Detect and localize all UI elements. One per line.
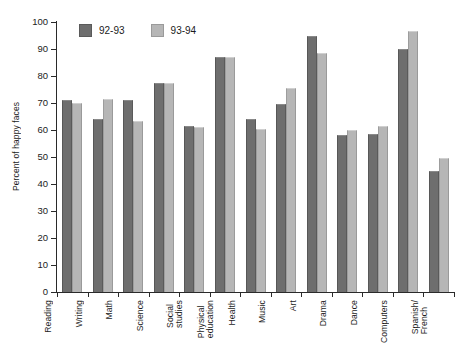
x-axis-tick xyxy=(210,292,211,297)
bar xyxy=(347,130,357,292)
y-axis-tick-label: 10 xyxy=(20,260,48,270)
legend-entry: 92-93 xyxy=(79,24,125,37)
bar xyxy=(429,171,439,293)
bar-group xyxy=(62,22,82,292)
x-axis-tick xyxy=(332,292,333,297)
y-axis-tick-label: 30 xyxy=(20,206,48,216)
y-axis-tick-label: 60 xyxy=(20,125,48,135)
legend-label: 93-94 xyxy=(171,26,197,36)
y-axis-tick-label: 70 xyxy=(20,98,48,108)
x-axis-tick xyxy=(301,292,302,297)
x-axis-tick xyxy=(179,292,180,297)
bar-group xyxy=(184,22,204,292)
bar-group xyxy=(93,22,113,292)
legend-swatch xyxy=(151,24,164,37)
bar xyxy=(72,103,82,292)
bar xyxy=(307,36,317,293)
bar xyxy=(225,57,235,292)
bar xyxy=(123,100,133,292)
legend-label: 92-93 xyxy=(99,26,125,36)
bar xyxy=(133,121,143,292)
bar xyxy=(246,119,256,292)
bar xyxy=(439,158,449,292)
x-axis-tick xyxy=(362,292,363,297)
bar-chart: Percent of happy faces 01020304050607080… xyxy=(0,0,463,357)
bar-group xyxy=(123,22,143,292)
x-axis-label: Spanish/ French xyxy=(411,300,463,334)
x-axis-line xyxy=(56,292,455,293)
bar xyxy=(194,127,204,292)
bar xyxy=(337,135,347,292)
x-axis-tick xyxy=(88,292,89,297)
bar-group xyxy=(307,22,327,292)
bar-group xyxy=(398,22,418,292)
x-axis-tick xyxy=(393,292,394,297)
bar-group xyxy=(276,22,296,292)
legend-swatch xyxy=(79,24,92,37)
chart-legend: 92-9393-94 xyxy=(79,24,196,37)
y-axis-tick-label: 20 xyxy=(20,233,48,243)
x-axis-tick xyxy=(240,292,241,297)
bar xyxy=(62,100,72,292)
bar xyxy=(103,99,113,292)
bar-group xyxy=(215,22,235,292)
x-axis-tick xyxy=(118,292,119,297)
bar xyxy=(408,31,418,292)
x-axis-tick xyxy=(423,292,424,297)
bar xyxy=(286,88,296,292)
legend-entry: 93-94 xyxy=(151,24,197,37)
bar xyxy=(276,104,286,292)
bar-group xyxy=(368,22,388,292)
y-axis-tick-label: 40 xyxy=(20,179,48,189)
x-axis-tick xyxy=(271,292,272,297)
x-axis-tick xyxy=(454,292,455,297)
bar-group xyxy=(337,22,357,292)
y-axis-tick-label: 0 xyxy=(20,287,48,297)
bar xyxy=(398,49,408,292)
bar xyxy=(368,134,378,292)
y-axis-tick-label: 80 xyxy=(20,71,48,81)
y-axis-tick-label: 50 xyxy=(20,152,48,162)
bar xyxy=(317,53,327,292)
bar xyxy=(184,126,194,292)
bar-group xyxy=(246,22,266,292)
x-axis-tick xyxy=(57,292,58,297)
x-axis-tick xyxy=(149,292,150,297)
bar-group xyxy=(154,22,174,292)
bar-group xyxy=(429,22,449,292)
bar xyxy=(215,57,225,292)
y-axis-tick-label: 100 xyxy=(20,17,48,27)
bar xyxy=(154,83,164,292)
plot-area xyxy=(57,22,454,292)
bar xyxy=(93,119,103,292)
bar xyxy=(164,83,174,292)
bar xyxy=(256,129,266,292)
bar xyxy=(378,126,388,292)
y-axis-tick-label: 90 xyxy=(20,44,48,54)
